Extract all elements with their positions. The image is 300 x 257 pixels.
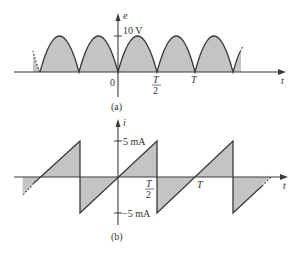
neg-label: −5 mA	[122, 208, 151, 219]
arrow-up-icon	[116, 119, 121, 127]
half-period-denominator: 2	[153, 85, 158, 96]
peak-label: 10 V	[123, 25, 143, 36]
y-axis-label-i: i	[123, 117, 126, 128]
half-period-denominator: 2	[146, 189, 151, 200]
rectified-sine-fill	[33, 36, 241, 72]
pos-label: 5 mA	[123, 136, 146, 147]
caption-b: (b)	[111, 231, 123, 243]
origin-label: 0	[110, 77, 115, 88]
caption-a: (a)	[111, 101, 122, 113]
panel-b: i 5 mA −5 mA T 2 T t (b)	[14, 117, 288, 243]
half-period-numerator: T	[153, 74, 160, 85]
panel-a: e 10 V 0 T 2 T t (a)	[14, 10, 286, 113]
arrow-up-icon	[116, 13, 121, 21]
figure: e 10 V 0 T 2 T t (a) i 5 mA −5 mA T	[0, 0, 300, 257]
dashed-extension-right	[240, 46, 243, 52]
x-axis-label-t: t	[281, 75, 284, 86]
x-axis-label-t: t	[283, 180, 286, 191]
period-label: T	[197, 179, 204, 190]
half-period-numerator: T	[146, 178, 153, 189]
y-axis-label-e: e	[123, 10, 128, 21]
period-label: T	[191, 74, 198, 85]
